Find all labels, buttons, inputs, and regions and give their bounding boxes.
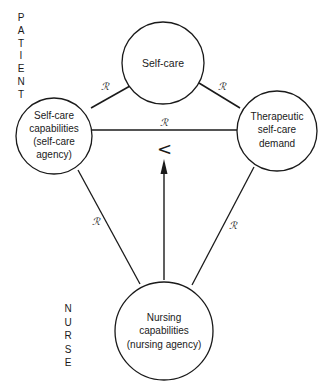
- relation-label-capabilities-nursing: ℛ: [92, 217, 100, 227]
- node-label: agency): [36, 149, 72, 162]
- node-therapeutic-demand: Therapeutic self-care demand: [237, 90, 317, 170]
- nurse-letter: N: [62, 302, 74, 316]
- node-label: Therapeutic: [251, 110, 304, 124]
- node-self-care-capabilities: Self-care capabilities (self-care agency…: [16, 98, 92, 174]
- node-label: capabilities: [29, 123, 78, 136]
- patient-letter: N: [15, 76, 27, 89]
- node-label: self-care: [258, 123, 296, 137]
- node-label: Nursing: [147, 311, 181, 325]
- relation-label-capabilities-demand: ℛ: [160, 118, 168, 128]
- arrow-head-icon: [161, 159, 168, 174]
- nursing-theory-diagram: P A T I E N T N U R S E Self-care Self-c…: [0, 0, 325, 389]
- node-label: (nursing agency): [127, 338, 201, 352]
- nurse-letter: S: [62, 343, 74, 357]
- node-nursing-capabilities: Nursing capabilities (nursing agency): [115, 282, 213, 380]
- node-label: capabilities: [139, 324, 188, 338]
- deficit-less-than-symbol: <: [157, 140, 172, 158]
- patient-letter: T: [15, 38, 27, 51]
- patient-letter: A: [15, 25, 27, 38]
- relation-label-capabilities-self-care: ℛ: [101, 82, 109, 92]
- relation-label-self-care-demand: ℛ: [218, 82, 226, 92]
- node-label: demand: [259, 137, 295, 151]
- nurse-letter: E: [62, 356, 74, 370]
- nurse-letter: R: [62, 329, 74, 343]
- node-label: Self-care: [34, 110, 74, 123]
- patient-side-label: P A T I E N T: [15, 12, 27, 102]
- nurse-side-label: N U R S E: [62, 302, 74, 370]
- patient-letter: E: [15, 63, 27, 76]
- node-self-care: Self-care: [122, 22, 204, 104]
- nurse-letter: U: [62, 316, 74, 330]
- link-demand-nursing: [192, 167, 254, 285]
- node-label: Self-care: [142, 57, 184, 70]
- patient-letter: P: [15, 12, 27, 25]
- node-label: (self-care: [33, 136, 75, 149]
- relation-label-demand-nursing: ℛ: [229, 221, 237, 231]
- link-capabilities-nursing: [78, 170, 140, 284]
- patient-letter: I: [15, 50, 27, 63]
